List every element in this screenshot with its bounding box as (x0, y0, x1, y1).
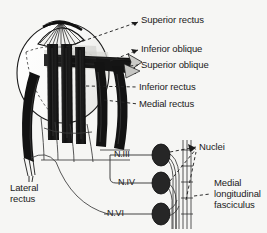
label-nerve-3: N.III (114, 149, 130, 159)
oblique-curved-muscles (94, 62, 128, 150)
label-lateral-rectus-line2: rectus (10, 193, 35, 204)
label-medial-longitudinal-fasciculus: Medial longitudinal fasciculus (214, 177, 267, 210)
label-mlf-line2: longitudinal (214, 188, 261, 199)
label-mlf-line3: fasciculus (214, 199, 255, 210)
label-nerve-4: N.IV (118, 177, 135, 187)
label-superior-oblique: Superior oblique (141, 59, 209, 70)
label-nuclei: Nuclei (199, 141, 225, 152)
label-lateral-rectus: Lateral rectus (10, 182, 70, 204)
anatomical-figure: Superior rectus Inferior oblique Superio… (0, 0, 267, 233)
label-mlf-line1: Medial (214, 177, 241, 188)
label-inferior-rectus: Inferior rectus (139, 81, 196, 92)
label-nerve-6: N.VI (107, 208, 124, 218)
nucleus-oculomotor (152, 144, 170, 166)
label-inferior-oblique: Inferior oblique (141, 43, 202, 54)
label-lateral-rectus-line1: Lateral (10, 182, 38, 193)
label-superior-rectus: Superior rectus (141, 14, 204, 25)
nucleus-abducens (152, 203, 170, 225)
nuclei-markers (152, 144, 170, 225)
label-medial-rectus: Medial rectus (139, 98, 194, 109)
nucleus-trochlear (152, 172, 170, 194)
rectus-muscle-bellies (47, 44, 86, 144)
